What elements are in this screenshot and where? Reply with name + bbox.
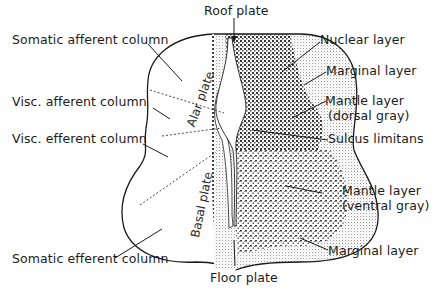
label-nuclear-layer: Nuclear layer bbox=[320, 33, 405, 47]
label-mantle-dorsal-line1: Mantle layer bbox=[325, 93, 410, 108]
label-floor-plate: Floor plate bbox=[210, 271, 278, 285]
label-visc-afferent-column: Visc. afferent column bbox=[12, 95, 147, 109]
label-mantle-ventral-line1: Mantle layer bbox=[342, 183, 429, 198]
label-visc-efferent-column: Visc. efferent column bbox=[12, 132, 147, 146]
label-marginal-layer-top: Marginal layer bbox=[326, 64, 417, 78]
label-mantle-layer-dorsal: Mantle layer (dorsal gray) bbox=[325, 93, 410, 123]
label-mantle-dorsal-line2: (dorsal gray) bbox=[325, 108, 410, 123]
label-roof-plate: Roof plate bbox=[204, 4, 268, 18]
label-somatic-afferent-column: Somatic afferent column bbox=[12, 33, 168, 47]
label-sulcus-limitans: Sulcus limitans bbox=[328, 132, 424, 146]
label-mantle-layer-ventral: Mantle layer (ventral gray) bbox=[342, 183, 429, 213]
label-mantle-ventral-line2: (ventral gray) bbox=[342, 198, 429, 213]
label-marginal-layer-bottom: Marginal layer bbox=[328, 244, 419, 258]
label-somatic-efferent-column: Somatic efferent column bbox=[12, 252, 169, 266]
